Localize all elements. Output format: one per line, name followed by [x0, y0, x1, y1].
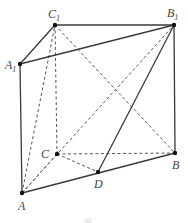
edge-A1-B1 [20, 25, 174, 64]
point-D [96, 170, 100, 174]
label-A1: A1 [4, 58, 16, 74]
edge-D-B1 [98, 25, 174, 172]
edge-A1-A [20, 64, 22, 193]
prism-diagram: C1 B1 A1 C A D B 图 [0, 0, 188, 223]
point-C [55, 152, 59, 156]
edge-A-C1 [22, 25, 55, 193]
label-B: B [172, 158, 180, 172]
edge-C-D [57, 154, 98, 172]
figure-caption: 图 [84, 218, 92, 223]
edge-C-B [57, 153, 175, 154]
point-B [173, 151, 177, 155]
hidden-edges [22, 25, 175, 193]
edge-B1-B [174, 25, 175, 153]
point-A [20, 191, 24, 195]
point-A1 [18, 62, 22, 66]
label-D: D [93, 177, 103, 191]
edge-A-B1 [22, 25, 174, 193]
vertex-labels: C1 B1 A1 C A D B [4, 6, 180, 213]
point-B1 [172, 23, 176, 27]
label-C1: C1 [48, 7, 60, 23]
label-B1: B1 [167, 6, 178, 22]
edge-A1-C1 [20, 25, 55, 64]
label-C: C [41, 147, 50, 161]
point-C1 [53, 23, 57, 27]
label-A: A [17, 199, 26, 213]
edge-C1-C [55, 25, 57, 154]
